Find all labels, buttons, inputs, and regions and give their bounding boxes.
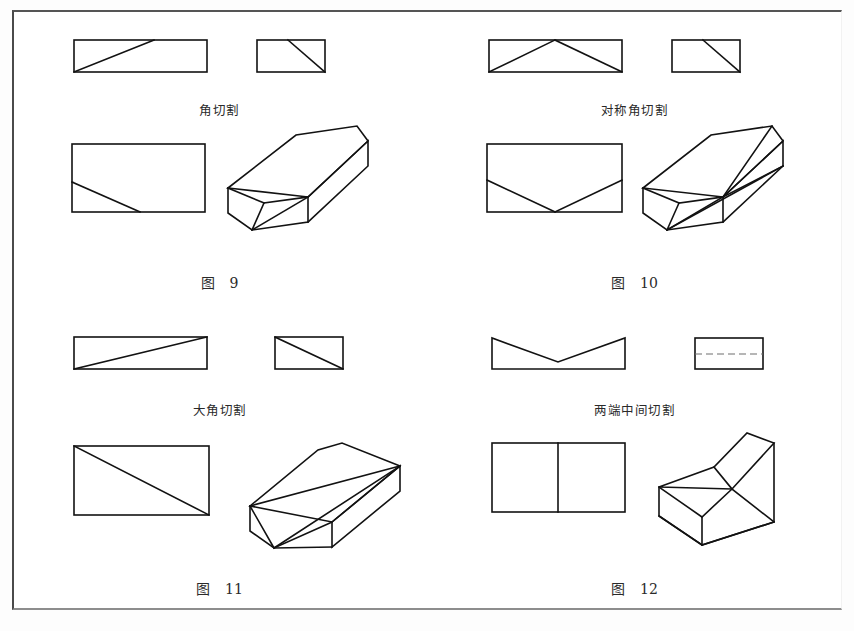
figure-drawing-fig9 <box>12 10 427 310</box>
fig12-iso-upper-top-face <box>659 433 774 489</box>
fig10-front-elevation-cut-left <box>489 40 555 72</box>
page-canvas: 角切割 图9 <box>0 0 854 631</box>
fig12-cut-label: 两端中间切割 <box>427 400 842 419</box>
fig12-iso-lower-top-face <box>702 489 774 522</box>
fig12-iso-front-bottom-edge <box>659 516 702 545</box>
fig11-cut-label: 大角切割 <box>12 400 427 419</box>
fig10-side-elevation-outline <box>672 40 740 72</box>
fig9-caption-word: 图 <box>201 275 216 291</box>
fig10-side-elevation-cut-line <box>703 40 740 72</box>
fig10-caption-number: 10 <box>640 275 658 291</box>
fig10-plan-cut-left <box>487 180 555 212</box>
fig11-iso-cut-facet <box>250 466 400 548</box>
fig10-cut-label: 对称角切割 <box>427 100 842 119</box>
fig10-front-elevation-outline <box>489 40 622 72</box>
fig9-side-elevation-cut-line <box>288 40 325 72</box>
fig12-iso-front-face-edge <box>702 522 774 545</box>
fig12-iso-left-face <box>659 487 702 545</box>
fig9-iso-left-face <box>228 188 308 230</box>
fig10-iso-cut-facet-left <box>643 188 679 230</box>
fig9-cut-label: 角切割 <box>12 100 427 119</box>
fig9-caption-number: 9 <box>230 275 239 291</box>
figure-drawing-fig12 <box>427 310 842 610</box>
fig10-front-elevation-cut-right <box>555 40 622 72</box>
fig12-caption-word: 图 <box>611 581 626 597</box>
figure-panel-fig9: 角切割 图9 <box>12 10 427 310</box>
fig11-caption: 图11 <box>12 578 427 598</box>
fig12-iso-outer-edges <box>659 443 774 545</box>
fig9-plan-outline <box>72 144 205 212</box>
fig12-caption: 图12 <box>427 578 842 598</box>
fig12-iso-fold-edge <box>714 467 732 489</box>
figure-grid: 角切割 图9 <box>12 10 842 610</box>
figure-drawing-fig10 <box>427 10 842 310</box>
fig12-front-elevation-profile <box>492 338 625 369</box>
fig11-iso-cut-edge-b <box>274 522 332 548</box>
fig9-iso-right-face <box>308 141 368 222</box>
fig10-caption-word: 图 <box>611 275 626 291</box>
fig11-caption-word: 图 <box>196 581 211 597</box>
fig9-plan-cut-line <box>72 182 140 212</box>
fig11-front-elevation-cut-line <box>74 337 207 369</box>
fig11-plan-cut-line <box>74 446 209 515</box>
fig11-side-elevation-cut-line <box>275 337 343 369</box>
fig10-iso-cut-facet-mid <box>667 126 772 230</box>
fig10-plan-outline <box>487 144 622 212</box>
figure-panel-fig11: 大角切割 图11 <box>12 310 427 610</box>
figure-drawing-fig11 <box>12 310 427 610</box>
fig12-caption-number: 12 <box>640 581 658 597</box>
fig11-caption-number: 11 <box>225 581 243 597</box>
fig9-front-elevation-cut-line <box>74 40 154 72</box>
fig10-caption: 图10 <box>427 272 842 292</box>
figure-panel-fig10: 对称角切割 图10 <box>427 10 842 310</box>
fig10-plan-cut-right <box>555 180 622 212</box>
fig9-caption: 图9 <box>12 272 427 292</box>
fig9-side-elevation-outline <box>257 40 325 72</box>
fig10-iso-left-face <box>643 188 723 230</box>
fig11-iso-cut-edge-main <box>250 466 400 506</box>
fig11-iso-right-face <box>332 466 400 547</box>
figure-panel-fig12: 两端中间切割 图12 <box>427 310 842 610</box>
